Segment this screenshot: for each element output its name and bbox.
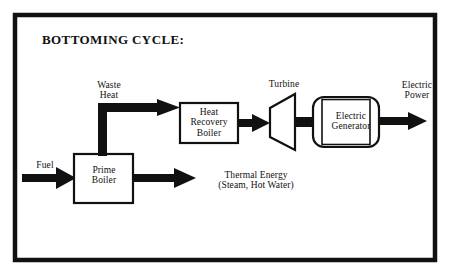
fuel-arrow bbox=[22, 167, 76, 189]
electric-power-label: Electric Power bbox=[392, 80, 442, 101]
hrb-to-turbine-arrow bbox=[238, 114, 270, 132]
heat-recovery-boiler-label: Heat Recovery Boiler bbox=[181, 107, 237, 138]
waste-heat-arrow bbox=[98, 99, 180, 156]
bottoming-cycle-diagram: BOTTOMING CYCLE: Waste Heat Heat Recover… bbox=[0, 0, 451, 274]
prime-boiler-label: Prime Boiler bbox=[76, 165, 132, 186]
electric-power-arrow bbox=[379, 112, 427, 130]
diagram-title: BOTTOMING CYCLE: bbox=[42, 33, 184, 47]
electric-generator-label: Electric Generator bbox=[322, 111, 380, 132]
fuel-label: Fuel bbox=[24, 160, 66, 170]
turbine-label: Turbine bbox=[254, 79, 314, 89]
turbine-shape bbox=[270, 94, 295, 150]
thermal-energy-label: Thermal Energy (Steam, Hot Water) bbox=[198, 170, 314, 191]
thermal-energy-arrow bbox=[133, 168, 196, 188]
waste-heat-label: Waste Heat bbox=[86, 80, 132, 101]
